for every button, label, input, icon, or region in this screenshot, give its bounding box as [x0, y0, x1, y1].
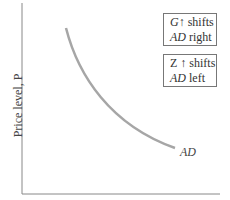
- var-ad: AD: [170, 30, 186, 44]
- direction-text: right: [186, 30, 212, 44]
- y-axis-label: Price level, P: [11, 56, 26, 156]
- annotation-box-z: Z ↑ shifts AD left: [163, 54, 217, 87]
- var-ad: AD: [170, 71, 186, 85]
- shift-text: ↑ shifts: [179, 15, 214, 29]
- annotation-box-g: G↑ shifts AD right: [163, 13, 217, 46]
- ad-curve: [66, 28, 175, 148]
- ad-curve-label: AD: [180, 145, 196, 160]
- shift-text: ↑ shifts: [177, 56, 215, 70]
- var-g: G: [170, 15, 179, 29]
- direction-text: left: [186, 71, 205, 85]
